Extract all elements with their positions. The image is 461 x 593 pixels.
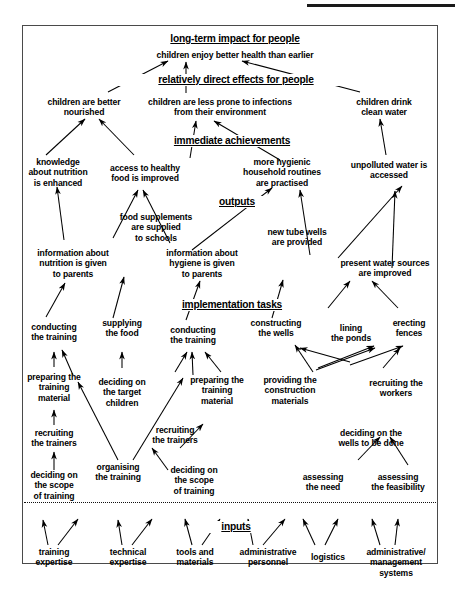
node-input-training-expertise: training expertise bbox=[22, 547, 86, 568]
node-task-lining-ponds: lining the ponds bbox=[320, 323, 382, 344]
node-task-deciding-wells-to-be-done: deciding on the wells to be done bbox=[320, 428, 422, 449]
node-task-assessing-feasibility: assessing the feasibility bbox=[358, 472, 438, 493]
node-task-recruiting-trainers-2: recruiting the trainers bbox=[140, 425, 210, 446]
node-task-conducting-training-1: conducting the training bbox=[20, 322, 88, 343]
node-input-logistics: logistics bbox=[302, 552, 354, 562]
node-task-deciding-scope-2: deciding on the scope of training bbox=[160, 465, 228, 496]
node-input-technical-expertise: technical expertise bbox=[96, 547, 160, 568]
node-task-organising-training: organising the training bbox=[84, 462, 152, 483]
level-heading-outputs: outputs bbox=[206, 196, 268, 208]
node-impact-better-health: children enjoy better health than earlie… bbox=[115, 50, 355, 60]
node-achievement-hygienic-routines: more hygienic household routines are pra… bbox=[228, 157, 336, 188]
node-effect-children-better-nourished: children are better nourished bbox=[34, 97, 134, 118]
node-task-conducting-training-2: conducting the training bbox=[158, 325, 228, 346]
node-task-preparing-material-1: preparing the training material bbox=[20, 372, 88, 403]
node-input-tools-and-materials: tools and materials bbox=[164, 547, 226, 568]
node-effect-less-prone-infections: children are less prone to infections fr… bbox=[142, 97, 298, 118]
level-heading-implementation-tasks: implementation tasks bbox=[145, 299, 319, 311]
node-output-information-hygiene: information about hygiene is given to pa… bbox=[155, 248, 249, 279]
node-achievement-unpolluted-water: unpolluted water is accessed bbox=[338, 160, 440, 181]
node-task-constructing-wells: constructing the wells bbox=[243, 318, 309, 339]
level-heading-immediate-achievements: immediate achievements bbox=[141, 135, 323, 147]
node-effect-children-drink-clean-water: children drink clean water bbox=[338, 97, 430, 118]
node-task-supplying-food: supplying the food bbox=[90, 318, 154, 339]
node-task-deciding-target-children: deciding on the target children bbox=[90, 377, 154, 408]
node-task-preparing-material-2: preparing the training material bbox=[182, 375, 252, 406]
node-task-recruiting-workers: recruiting the workers bbox=[358, 378, 434, 399]
level-heading-relatively-direct-effects: relatively direct effects for people bbox=[95, 74, 377, 86]
node-task-providing-construction-materials: providing the construction materials bbox=[252, 375, 328, 406]
top-rule bbox=[307, 4, 455, 7]
level-heading-long-term-impact: long-term impact for people bbox=[124, 33, 346, 45]
node-task-recruiting-trainers-1: recruiting the trainers bbox=[20, 428, 88, 449]
inputs-divider bbox=[24, 502, 436, 503]
level-heading-inputs: inputs bbox=[207, 521, 265, 533]
node-input-administrative-management-systems: administrative/ management systems bbox=[356, 547, 436, 578]
node-achievement-knowledge-nutrition: knowledge about nutrition is enhanced bbox=[18, 157, 98, 188]
node-output-present-water-sources: present water sources are improved bbox=[330, 258, 440, 279]
node-task-deciding-scope-1: deciding on the scope of training bbox=[20, 470, 88, 501]
node-output-food-supplements: food supplements are supplied to schools bbox=[108, 212, 204, 243]
node-achievement-access-healthy-food: access to healthy food is improved bbox=[98, 163, 192, 184]
node-task-erecting-fences: erecting fences bbox=[382, 318, 436, 339]
node-input-administrative-personnel: administrative personnel bbox=[226, 547, 310, 568]
node-output-new-tube-wells: new tube wells are provided bbox=[256, 227, 338, 248]
node-output-information-nutrition: information about nutrition is given to … bbox=[26, 248, 120, 279]
node-task-assessing-need: assessing the need bbox=[290, 472, 356, 493]
